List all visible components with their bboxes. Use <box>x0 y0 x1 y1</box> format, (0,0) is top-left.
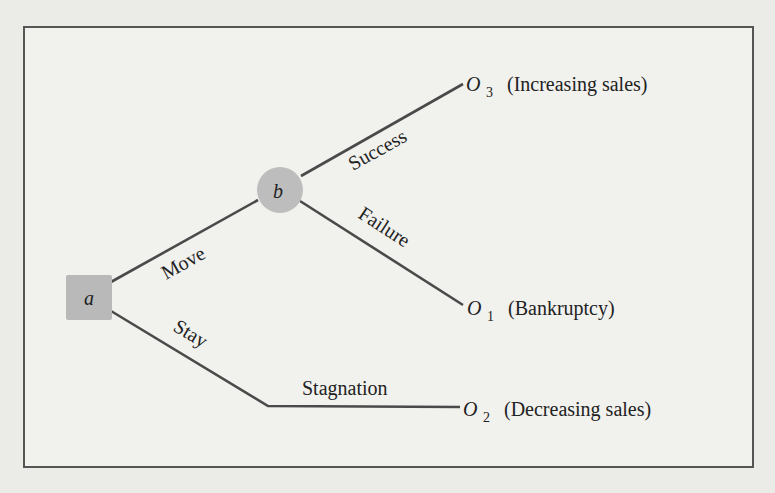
outcome-o3-symbol: O <box>466 73 480 95</box>
chance-node-label: b <box>273 180 283 202</box>
outcome-o2-description: (Decreasing sales) <box>504 398 651 421</box>
outcome-o1-symbol: O <box>467 297 481 319</box>
decision-node-label: a <box>84 287 94 309</box>
decision-node-a: a <box>66 275 112 320</box>
outcome-o1-description: (Bankruptcy) <box>508 297 615 320</box>
outcome-o3-subscript: 3 <box>486 85 493 100</box>
outcome-o3-description: (Increasing sales) <box>507 73 648 96</box>
outcome-o1-subscript: 1 <box>487 309 494 324</box>
outcome-o2-symbol: O <box>463 398 477 420</box>
branch-label-stagnation: Stagnation <box>302 377 388 400</box>
outcome-o2-subscript: 2 <box>483 410 490 425</box>
decision-tree-diagram: a b Move Success Failure Stay Stagnation… <box>0 0 775 493</box>
chance-node-b: b <box>257 167 303 213</box>
